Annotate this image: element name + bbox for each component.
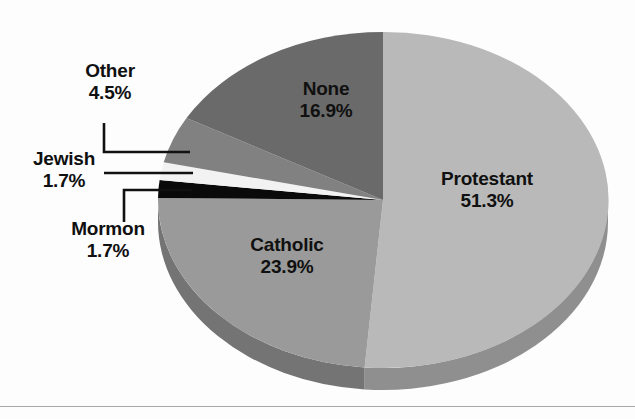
slice-label-protestant-value: 51.3% bbox=[412, 190, 562, 212]
slice-label-other: Other 4.5% bbox=[56, 60, 164, 103]
slice-label-jewish-name: Jewish bbox=[8, 148, 120, 170]
slice-label-mormon-name: Mormon bbox=[44, 218, 172, 240]
figure-baseline-rule bbox=[0, 406, 635, 407]
slice-label-jewish: Jewish 1.7% bbox=[8, 148, 120, 191]
slice-label-mormon: Mormon 1.7% bbox=[44, 218, 172, 261]
slice-label-none-name: None bbox=[268, 78, 384, 100]
slice-label-other-value: 4.5% bbox=[56, 82, 164, 104]
slice-label-protestant: Protestant 51.3% bbox=[412, 168, 562, 211]
slice-label-jewish-value: 1.7% bbox=[8, 170, 120, 192]
pie-chart-figure: None 16.9% Protestant 51.3% Catholic 23.… bbox=[0, 0, 635, 419]
slice-label-none: None 16.9% bbox=[268, 78, 384, 121]
slice-catholic bbox=[158, 198, 383, 368]
slice-label-other-name: Other bbox=[56, 60, 164, 82]
slice-label-catholic-name: Catholic bbox=[222, 234, 352, 256]
slice-label-mormon-value: 1.7% bbox=[44, 240, 172, 262]
slice-label-catholic: Catholic 23.9% bbox=[222, 234, 352, 277]
slice-label-protestant-name: Protestant bbox=[412, 168, 562, 190]
slice-label-none-value: 16.9% bbox=[268, 100, 384, 122]
slice-label-catholic-value: 23.9% bbox=[222, 256, 352, 278]
